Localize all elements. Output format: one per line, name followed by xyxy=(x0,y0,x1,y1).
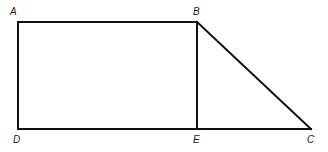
segment-bc xyxy=(197,22,311,129)
label-b: B xyxy=(193,6,200,17)
label-d: D xyxy=(13,134,20,145)
label-c: C xyxy=(307,134,315,145)
geometry-diagram: A B D E C xyxy=(0,0,328,152)
label-a: A xyxy=(9,6,17,17)
label-e: E xyxy=(193,134,200,145)
